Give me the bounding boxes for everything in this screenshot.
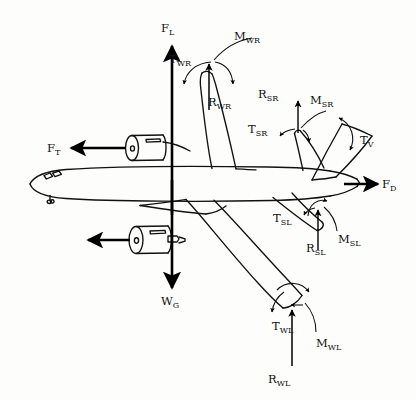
drag-force-label: FD (382, 177, 396, 193)
right-stabilizer-loads (280, 101, 326, 142)
engine-left-inboard (129, 226, 185, 254)
left-stabilizer-moment-label: MSL (338, 232, 361, 248)
right-stabilizer-moment-label: MSR (310, 93, 334, 109)
thrust-force-label: FT (47, 141, 61, 157)
vertical-fin-torque (339, 118, 353, 150)
weight-force-label: WG (161, 294, 179, 310)
engine-right-inboard (126, 135, 191, 161)
left-stabilizer-reaction-label: RSL (306, 241, 326, 257)
figure-canvas: FL WG FT FD TWR MWR RWR (0, 0, 416, 400)
aircraft-force-diagram: FL WG FT FD TWR MWR RWR (0, 0, 416, 400)
right-wing-tip-loads (184, 38, 252, 110)
right-stabilizer-reaction-label: RSR (258, 87, 279, 103)
left-wing-torque-label: TWL (272, 319, 294, 335)
right-wing-moment-label: MWR (234, 29, 261, 45)
fuselage (30, 167, 360, 204)
left-wing-moment-label: MWL (316, 336, 342, 352)
right-stabilizer-torque-label: TSR (248, 122, 268, 138)
lift-force-label: FL (161, 21, 175, 37)
left-stabilizer-torque-label: TSL (273, 211, 292, 227)
right-wing-torque-label: TWR (169, 52, 192, 68)
right-wing-reaction-label: RWR (208, 95, 232, 111)
left-wing-reaction-label: RWL (268, 372, 291, 388)
